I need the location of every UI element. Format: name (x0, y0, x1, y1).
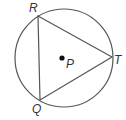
label-p: P (66, 57, 74, 71)
label-t: T (114, 53, 123, 67)
triangle-rtq (38, 16, 112, 100)
label-r: R (29, 1, 38, 15)
geometry-diagram: R T Q P (0, 0, 126, 120)
center-point (59, 55, 64, 60)
label-q: Q (32, 102, 41, 116)
